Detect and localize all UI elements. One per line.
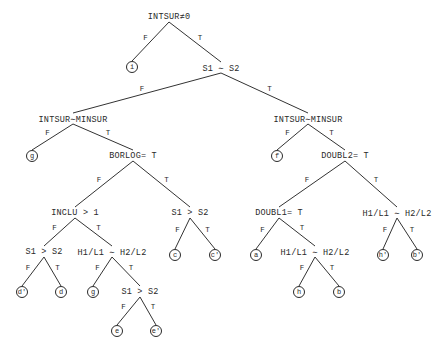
tree-edge: [397, 218, 417, 249]
tree-edge: [140, 297, 156, 325]
branch-label: T: [329, 129, 334, 137]
branch-label: T: [198, 34, 203, 42]
tree-edge: [190, 218, 215, 249]
tree-edge: [383, 218, 397, 249]
branch-label: F: [97, 176, 102, 184]
branch-label: T: [164, 176, 169, 184]
decision-node: H1/L1 ∼ H2/L2: [78, 247, 147, 258]
branch-label: F: [121, 303, 126, 311]
leaf-node: c: [169, 249, 181, 261]
branch-label: T: [300, 224, 305, 232]
decision-node: S1 > S2: [25, 247, 62, 257]
tree-edge: [22, 257, 44, 286]
tree-edge: [279, 218, 315, 246]
branch-label: F: [143, 34, 148, 42]
decision-node: INTSUR∼MINSUR: [274, 114, 343, 125]
tree-edge: [112, 257, 140, 286]
leaf-node: h': [377, 249, 389, 261]
branch-label: F: [140, 85, 145, 93]
leaf-node: e: [111, 325, 123, 337]
tree-edge: [73, 124, 133, 150]
tree-edge: [44, 257, 61, 286]
leaf-node: b': [411, 249, 423, 261]
branch-label: T: [374, 176, 379, 184]
tree-edge: [345, 161, 397, 207]
decision-node: INTSUR≠0: [148, 12, 190, 22]
decision-node: S1 ∼ S2: [202, 63, 239, 74]
leaf-node: d': [16, 286, 28, 298]
decision-node: BORLOG= T: [109, 151, 157, 161]
branch-label: T: [330, 264, 335, 272]
branch-label: F: [285, 129, 290, 137]
branch-label: F: [175, 226, 180, 234]
branch-label: T: [96, 224, 101, 232]
branch-label: T: [205, 226, 210, 234]
branch-label: T: [129, 264, 134, 272]
decision-node: DOUBL2= T: [321, 151, 369, 161]
tree-edge: [117, 297, 140, 325]
branch-label: T: [410, 226, 415, 234]
branch-label: F: [300, 264, 305, 272]
decision-tree: FTFTFTFTFTFTFTFTFTFTFTFTFTFTINTSUR≠0S1 ∼…: [0, 0, 448, 358]
leaf-node: a: [250, 249, 262, 261]
branch-label: F: [305, 176, 310, 184]
tree-edges: [0, 0, 448, 358]
leaf-node: b: [333, 286, 345, 298]
tree-edge: [132, 22, 169, 61]
decision-node: S1 > S2: [171, 208, 208, 218]
tree-edge: [315, 257, 339, 286]
leaf-node: g: [26, 150, 38, 162]
tree-edge: [44, 218, 75, 246]
leaf-node: i: [126, 61, 138, 73]
leaf-node: g: [87, 286, 99, 298]
branch-label: F: [45, 129, 50, 137]
branch-label: T: [267, 85, 272, 93]
branch-label: F: [26, 264, 31, 272]
tree-edge: [279, 161, 345, 207]
tree-edge: [93, 257, 112, 286]
tree-edge: [277, 124, 308, 150]
branch-label: F: [383, 226, 388, 234]
tree-edge: [256, 218, 279, 249]
decision-node: S1 > S2: [121, 287, 158, 297]
tree-edge: [221, 73, 308, 113]
decision-node: INTSUR∼MINSUR: [39, 114, 108, 125]
branch-label: F: [95, 264, 100, 272]
branch-label: F: [260, 226, 265, 234]
leaf-node: f: [271, 150, 283, 162]
tree-edge: [133, 161, 190, 207]
tree-edge: [73, 73, 221, 113]
branch-label: T: [151, 303, 156, 311]
tree-edge: [32, 124, 73, 150]
tree-edge: [75, 161, 133, 207]
decision-node: INCLU > 1: [51, 208, 99, 218]
branch-label: F: [52, 224, 57, 232]
leaf-node: e': [150, 325, 162, 337]
tree-edge: [175, 218, 190, 249]
decision-node: H1/L1 ∼ H2/L2: [281, 247, 350, 258]
leaf-node: d: [55, 286, 67, 298]
branch-label: T: [106, 129, 111, 137]
tree-edge: [169, 22, 221, 62]
tree-edge: [75, 218, 112, 246]
leaf-node: c': [209, 249, 221, 261]
tree-edge: [308, 124, 345, 150]
branch-label: T: [55, 264, 60, 272]
decision-node: H1/L1 ∼ H2/L2: [363, 208, 432, 219]
decision-node: DOUBL1= T: [255, 208, 303, 218]
tree-edge: [299, 257, 315, 286]
leaf-node: h: [293, 286, 305, 298]
